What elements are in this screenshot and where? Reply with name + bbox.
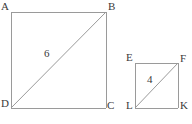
vertex-label-a: A (1, 1, 9, 12)
small-square-diagonal-lf (135, 63, 178, 108)
vertex-label-e: E (126, 52, 133, 63)
large-diagonal-measure-label: 6 (44, 48, 50, 59)
small-diagonal-measure-label: 4 (147, 74, 153, 85)
small-square-group (135, 63, 178, 108)
large-square-diagonal-db (11, 12, 106, 108)
geometry-figure: A B C D E F K L 6 4 (0, 0, 192, 124)
large-square-group (11, 12, 106, 108)
vertex-label-f: F (180, 53, 186, 64)
vertex-label-d: D (1, 98, 9, 109)
vertex-label-l: L (126, 100, 133, 111)
vertex-label-b: B (108, 1, 115, 12)
vertex-label-c: C (107, 100, 114, 111)
figure-canvas (0, 0, 192, 124)
vertex-label-k: K (180, 100, 188, 111)
